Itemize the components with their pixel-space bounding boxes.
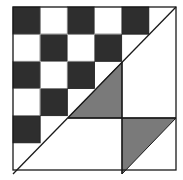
dark-square <box>40 89 67 116</box>
dark-square <box>13 116 40 143</box>
dark-square <box>13 7 40 34</box>
dark-square <box>40 34 67 61</box>
dark-square <box>13 61 40 88</box>
dark-square <box>67 7 94 34</box>
dark-square <box>122 7 149 34</box>
quilt-block-diagram <box>0 0 183 180</box>
dark-square <box>67 61 94 88</box>
dark-square <box>95 34 122 61</box>
